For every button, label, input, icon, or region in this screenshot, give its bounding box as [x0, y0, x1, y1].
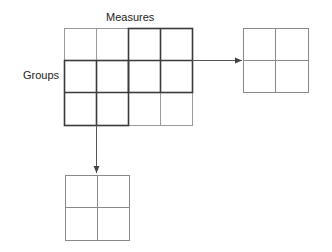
bottom-result-grid: [66, 176, 130, 241]
highlight-block-measures: [129, 29, 193, 93]
highlight-block-groups: [65, 61, 129, 126]
diagram-canvas: [0, 0, 332, 252]
right-result-grid: [244, 29, 309, 93]
